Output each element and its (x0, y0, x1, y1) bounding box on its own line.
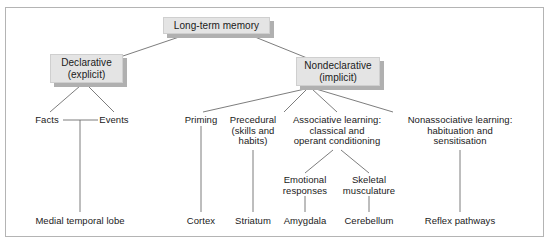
label-associative-learning: Associative learning: classical and oper… (282, 115, 392, 147)
label-reflex-pathways: Reflex pathways (415, 216, 505, 227)
edge-nondeclarative-procedural (284, 89, 307, 112)
node-long-term-memory: Long-term memory (163, 17, 270, 34)
edge-associative-emotional (305, 150, 333, 173)
node-nondeclarative-label: Nondeclarative (implicit) (304, 60, 371, 83)
figure-container: Long-term memory Declarative (explicit) … (0, 0, 551, 246)
edge-declarative-events (88, 86, 114, 112)
label-procedural: Precedural (skills and habits) (222, 115, 284, 147)
label-emotional-responses: Emotional responses (272, 175, 338, 196)
label-striatum: Striatum (226, 216, 280, 227)
edge-nondeclarative-associative (312, 89, 337, 112)
edge-declarative-facts (50, 86, 80, 112)
label-cerebellum: Cerebellum (338, 216, 400, 227)
node-declarative-label: Declarative (explicit) (61, 57, 112, 80)
edge-nondeclarative-priming (203, 89, 305, 112)
label-medial-temporal-lobe: Medial temporal lobe (25, 216, 135, 227)
node-long-term-memory-label: Long-term memory (174, 20, 259, 32)
edge-nondeclarative-nonassociative (316, 89, 393, 112)
label-cortex: Cortex (176, 216, 226, 227)
label-skeletal-musculature: Skeletal musculature (331, 175, 407, 196)
node-declarative: Declarative (explicit) (50, 54, 123, 83)
edge-associative-skeletal (341, 150, 369, 173)
label-amygdala: Amygdala (276, 216, 334, 227)
label-nonassociative-learning: Nonassociative learning: habituation and… (399, 115, 521, 147)
label-priming: Priming (174, 115, 228, 126)
label-facts: Facts (22, 115, 72, 126)
label-events: Events (89, 115, 139, 126)
node-nondeclarative: Nondeclarative (implicit) (296, 57, 380, 86)
edge-root-declarative (120, 35, 185, 57)
